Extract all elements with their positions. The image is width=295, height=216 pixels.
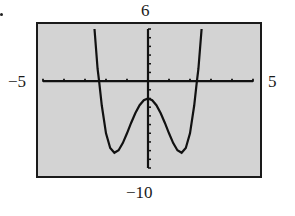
graph-plot xyxy=(0,0,295,216)
